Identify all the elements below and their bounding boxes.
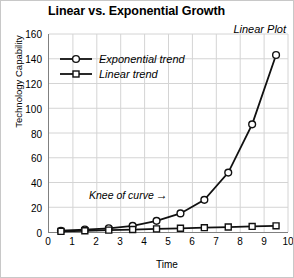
chart-figure: Linear vs. Exponential Growth Linear Plo… — [0, 0, 294, 278]
data-point-marker — [82, 228, 88, 234]
x-tick-label: 10 — [276, 236, 294, 247]
y-tick-label: 40 — [0, 178, 42, 189]
data-point-marker — [249, 223, 255, 229]
series-line-0 — [61, 55, 276, 231]
data-point-marker — [273, 52, 280, 59]
x-tick-label: 7 — [204, 236, 228, 247]
legend-label: Linear trend — [99, 68, 158, 80]
knee-of-curve-annotation: Knee of curve → — [89, 189, 168, 201]
x-tick-label: 5 — [156, 236, 180, 247]
y-tick-label: 80 — [0, 128, 42, 139]
data-point-marker — [249, 121, 256, 128]
x-tick-label: 0 — [36, 236, 60, 247]
data-point-marker — [201, 196, 208, 203]
y-tick-label: 160 — [0, 29, 42, 40]
x-tick-label: 6 — [180, 236, 204, 247]
y-tick-label: 20 — [0, 203, 42, 214]
x-tick-label: 1 — [60, 236, 84, 247]
x-tick-label: 3 — [108, 236, 132, 247]
arrow-right-icon: → — [156, 189, 168, 201]
data-point-marker — [153, 217, 160, 224]
y-tick-label: 140 — [0, 53, 42, 64]
legend-item-0: Exponential trend — [59, 51, 185, 66]
chart-legend: Exponential trendLinear trend — [59, 51, 185, 81]
x-tick-label: 2 — [84, 236, 108, 247]
y-tick-label: 60 — [0, 153, 42, 164]
data-point-marker — [106, 227, 112, 233]
x-tick-label: 9 — [252, 236, 276, 247]
x-tick-label: 4 — [132, 236, 156, 247]
data-point-marker — [273, 223, 279, 229]
data-point-marker — [130, 227, 136, 233]
x-tick-label: 8 — [228, 236, 252, 247]
x-axis-title: Time — [48, 259, 286, 270]
legend-marker-circle-icon — [59, 53, 93, 65]
data-point-marker — [177, 210, 184, 217]
data-point-marker — [177, 225, 183, 231]
y-tick-label: 120 — [0, 78, 42, 89]
legend-item-1: Linear trend — [59, 66, 185, 81]
legend-marker-square-icon — [59, 68, 93, 80]
data-point-marker — [58, 228, 64, 234]
knee-annotation-label: Knee of curve — [89, 189, 154, 201]
data-point-marker — [154, 226, 160, 232]
data-point-marker — [225, 169, 232, 176]
data-point-marker — [225, 224, 231, 230]
y-tick-label: 100 — [0, 103, 42, 114]
data-point-marker — [201, 225, 207, 231]
legend-label: Exponential trend — [99, 53, 185, 65]
chart-title: Linear vs. Exponential Growth — [48, 4, 228, 19]
